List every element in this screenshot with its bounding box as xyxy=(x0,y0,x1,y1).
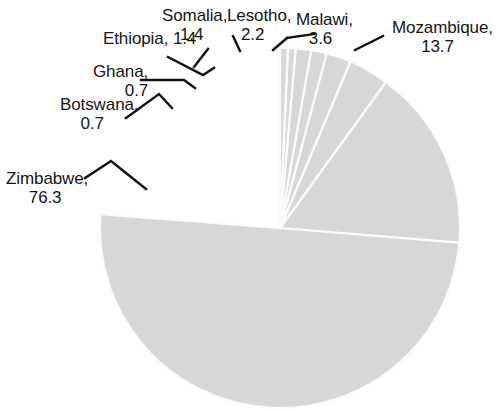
pie-slices xyxy=(100,48,460,408)
pie-chart-figure: Somalia, 1.4 Lesotho, 2.2 Malawi, 3.6 Mo… xyxy=(0,0,499,412)
pie-label-ethiopia: Ethiopia, 1.4 xyxy=(103,29,196,48)
pie-label-mozambique-name: Mozambique, xyxy=(392,18,493,37)
pie-label-lesotho: Lesotho, 2.2 xyxy=(227,6,291,44)
leader-line-ethiopia xyxy=(168,57,214,75)
pie-label-zimbabwe-name: Zimbabwe, xyxy=(6,169,88,188)
leader-line-ghana xyxy=(141,80,195,88)
pie-label-lesotho-name: Lesotho, xyxy=(227,6,291,25)
pie-label-malawi-name: Malawi, xyxy=(296,10,353,29)
leader-line-somalia xyxy=(194,49,208,67)
pie-label-mozambique: Mozambique, 13.7 xyxy=(392,18,493,56)
pie-label-zimbabwe: Zimbabwe, 76.3 xyxy=(6,169,88,207)
pie-label-ghana-name: Ghana, xyxy=(93,62,148,81)
pie-label-somalia-name: Somalia, xyxy=(162,6,227,25)
leader-line-zimbabwe xyxy=(85,161,146,189)
pie-label-ethiopia-name: Ethiopia, 1.4 xyxy=(103,29,196,48)
pie-label-zimbabwe-value: 76.3 xyxy=(6,188,88,207)
leader-line-mozambique xyxy=(355,36,383,50)
pie-label-botswana-name: Botswana, xyxy=(60,95,138,114)
pie-label-malawi: Malawi, 3.6 xyxy=(296,10,353,48)
pie-label-lesotho-value: 2.2 xyxy=(227,25,291,44)
pie-label-botswana-value: 0.7 xyxy=(60,114,138,133)
pie-label-botswana: Botswana, 0.7 xyxy=(60,95,138,133)
pie-label-malawi-value: 3.6 xyxy=(296,29,353,48)
pie-label-mozambique-value: 13.7 xyxy=(392,37,493,56)
